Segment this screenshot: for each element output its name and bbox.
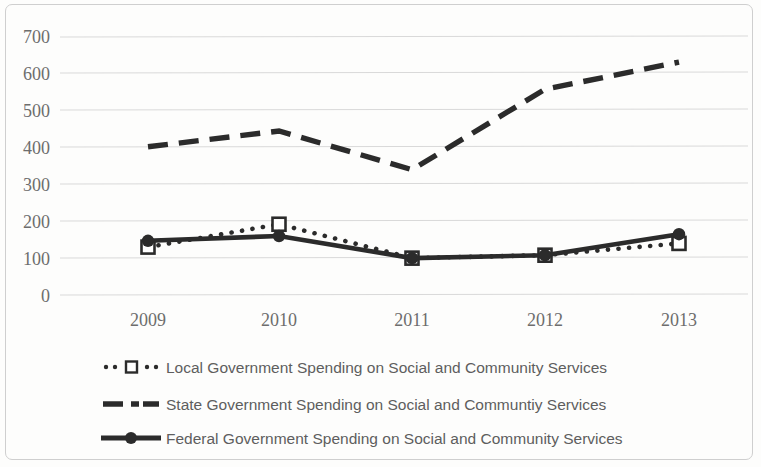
legend-entry-local: Local Government Spending on Social and … bbox=[104, 359, 608, 376]
chart-legend: Local Government Spending on Social and … bbox=[101, 359, 623, 447]
chart-figure: 700 600 500 400 300 200 100 0 2009 2010 … bbox=[0, 0, 761, 467]
line-chart-svg: 700 600 500 400 300 200 100 0 2009 2010 … bbox=[0, 0, 761, 467]
series-2 bbox=[148, 62, 679, 170]
y-tick-label: 600 bbox=[23, 64, 50, 84]
data-point-marker bbox=[273, 218, 286, 231]
legend-label: Federal Government Spending on Social an… bbox=[166, 430, 623, 447]
y-tick-label: 300 bbox=[23, 175, 50, 195]
x-tick-label: 2011 bbox=[394, 310, 429, 330]
data-point-marker bbox=[673, 228, 685, 240]
data-point-marker bbox=[142, 235, 154, 247]
data-point-marker bbox=[539, 249, 551, 261]
x-axis-ticks: 2009 2010 2011 2012 2013 bbox=[130, 310, 697, 330]
legend-entry-federal: Federal Government Spending on Social an… bbox=[101, 430, 623, 447]
y-tick-label: 700 bbox=[23, 27, 50, 47]
data-point-marker bbox=[273, 230, 285, 242]
y-tick-label: 500 bbox=[23, 101, 50, 121]
x-tick-label: 2010 bbox=[261, 310, 297, 330]
legend-entry-state: State Government Spending on Social and … bbox=[103, 396, 607, 413]
series-line-dashed bbox=[148, 62, 679, 170]
data-series-layer bbox=[142, 62, 686, 265]
plot-area: 700 600 500 400 300 200 100 0 2009 2010 … bbox=[0, 0, 761, 467]
x-tick-label: 2012 bbox=[527, 310, 563, 330]
y-tick-label: 0 bbox=[41, 286, 50, 306]
dotted-open-square-swatch bbox=[104, 362, 158, 373]
y-tick-label: 400 bbox=[23, 138, 50, 158]
y-tick-label: 100 bbox=[23, 249, 50, 269]
data-point-marker bbox=[406, 252, 418, 264]
solid-filled-circle-swatch bbox=[101, 432, 161, 444]
x-tick-label: 2009 bbox=[130, 310, 166, 330]
legend-label: State Government Spending on Social and … bbox=[166, 396, 607, 413]
x-tick-label: 2013 bbox=[661, 310, 697, 330]
y-axis-ticks: 700 600 500 400 300 200 100 0 bbox=[23, 27, 50, 306]
y-tick-label: 200 bbox=[23, 212, 50, 232]
legend-label: Local Government Spending on Social and … bbox=[166, 359, 607, 376]
